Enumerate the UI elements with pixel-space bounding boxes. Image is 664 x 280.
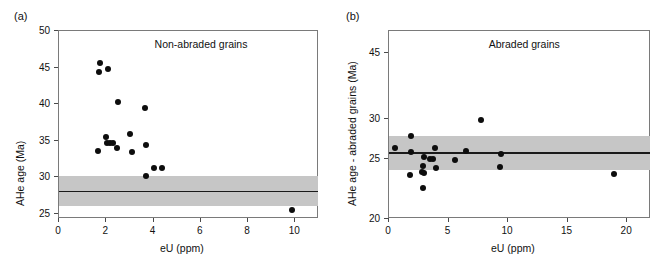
x-tick-mark bbox=[153, 218, 154, 222]
y-tick-label: 50 bbox=[28, 25, 50, 36]
y-tick-mark bbox=[384, 158, 388, 159]
data-point bbox=[127, 131, 133, 137]
x-tick-mark bbox=[448, 218, 449, 222]
data-point bbox=[433, 165, 439, 171]
x-tick-label: 10 bbox=[502, 225, 513, 236]
y-tick-mark bbox=[54, 176, 58, 177]
data-point bbox=[408, 149, 414, 155]
y-tick-mark bbox=[384, 118, 388, 119]
panel-a: (a) 0246810253035404550 Non-abraded grai… bbox=[0, 0, 332, 280]
panel-b-mean-line bbox=[389, 152, 650, 154]
y-tick-label: 40 bbox=[28, 98, 50, 109]
data-point bbox=[611, 171, 617, 177]
x-tick-label: 2 bbox=[102, 225, 108, 236]
x-tick-mark bbox=[294, 218, 295, 222]
data-point bbox=[103, 134, 109, 140]
data-point bbox=[96, 69, 102, 75]
data-point bbox=[143, 142, 149, 148]
x-tick-label: 15 bbox=[561, 225, 572, 236]
data-point bbox=[114, 145, 120, 151]
y-tick-label: 35 bbox=[28, 134, 50, 145]
data-point bbox=[497, 164, 503, 170]
panel-a-mean-line bbox=[59, 191, 318, 193]
x-tick-label: 0 bbox=[55, 225, 61, 236]
x-tick-label: 0 bbox=[385, 225, 391, 236]
y-tick-label: 45 bbox=[358, 47, 380, 58]
panel-b-x-axis-label: eU (ppm) bbox=[491, 242, 535, 254]
data-point bbox=[289, 207, 295, 213]
panel-a-title: Non-abraded grains bbox=[155, 38, 248, 50]
x-tick-mark bbox=[626, 218, 627, 222]
x-tick-mark bbox=[200, 218, 201, 222]
panel-b-y-axis-label: AHe age - abraded grains (Ma) bbox=[346, 61, 358, 206]
data-point bbox=[95, 148, 101, 154]
x-tick-mark bbox=[388, 218, 389, 222]
data-point bbox=[129, 149, 135, 155]
y-tick-mark bbox=[54, 213, 58, 214]
x-tick-label: 8 bbox=[244, 225, 250, 236]
y-tick-mark bbox=[384, 218, 388, 219]
y-tick-label: 20 bbox=[358, 213, 380, 224]
x-tick-mark bbox=[567, 218, 568, 222]
data-point bbox=[392, 145, 398, 151]
y-tick-label: 25 bbox=[358, 153, 380, 164]
panel-a-y-axis-label: AHe age (Ma) bbox=[14, 141, 26, 206]
data-point bbox=[463, 148, 469, 154]
y-tick-label: 25 bbox=[28, 207, 50, 218]
x-tick-mark bbox=[507, 218, 508, 222]
y-tick-mark bbox=[54, 30, 58, 31]
y-tick-mark bbox=[54, 67, 58, 68]
y-tick-label: 45 bbox=[28, 61, 50, 72]
x-tick-label: 6 bbox=[197, 225, 203, 236]
data-point bbox=[115, 99, 121, 105]
panel-a-x-axis-label: eU (ppm) bbox=[160, 242, 204, 254]
data-point bbox=[151, 165, 157, 171]
x-tick-label: 5 bbox=[445, 225, 451, 236]
x-tick-mark bbox=[105, 218, 106, 222]
panel-b-plot-frame bbox=[388, 30, 650, 218]
y-tick-mark bbox=[54, 103, 58, 104]
data-point bbox=[143, 173, 149, 179]
data-point bbox=[97, 60, 103, 66]
y-tick-mark bbox=[54, 140, 58, 141]
y-tick-label: 30 bbox=[358, 113, 380, 124]
panel-b-title: Abraded grains bbox=[489, 38, 560, 50]
x-tick-mark bbox=[247, 218, 248, 222]
data-point bbox=[430, 156, 436, 162]
x-tick-mark bbox=[58, 218, 59, 222]
panel-b-letter: (b) bbox=[346, 10, 359, 22]
x-tick-label: 4 bbox=[150, 225, 156, 236]
y-tick-mark bbox=[384, 52, 388, 53]
data-point bbox=[498, 151, 504, 157]
y-tick-label: 30 bbox=[28, 171, 50, 182]
data-point bbox=[452, 157, 458, 163]
x-tick-label: 20 bbox=[621, 225, 632, 236]
x-tick-label: 10 bbox=[289, 225, 300, 236]
panel-b: (b) 0510152020253045 Abraded grains eU (… bbox=[332, 0, 664, 280]
panel-a-letter: (a) bbox=[14, 10, 27, 22]
